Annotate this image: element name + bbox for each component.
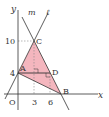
- tick-x6: 6: [48, 98, 53, 107]
- tick-x3: 3: [32, 98, 37, 107]
- line-m-label: m: [28, 8, 36, 17]
- tick-y10: 10: [5, 37, 15, 46]
- point-c-label: C: [36, 37, 42, 46]
- line-l-label: ℓ: [46, 8, 50, 17]
- point-d-label: D: [52, 68, 58, 77]
- point-b-label: B: [63, 87, 69, 96]
- point-a-label: A: [19, 64, 26, 73]
- x-axis-label: x: [98, 90, 103, 100]
- y-axis-label: y: [10, 4, 17, 14]
- origin-label: O: [9, 98, 16, 107]
- tick-y4: 4: [10, 69, 15, 78]
- coordinate-diagram: y x O m ℓ 10 4 3 6 C A D B: [0, 0, 109, 117]
